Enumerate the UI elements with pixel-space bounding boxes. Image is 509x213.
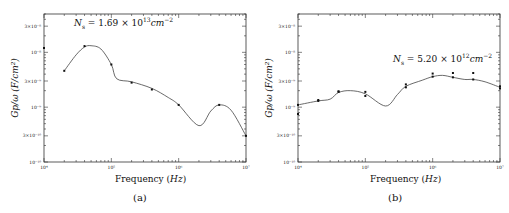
data-point xyxy=(432,76,434,78)
y-tick-label: 10⁻¹⁰ xyxy=(29,160,41,165)
xlabel-unit: Hz xyxy=(170,174,183,184)
annotation-unit: cm xyxy=(470,54,484,64)
y-tick-label: 10⁻⁸ xyxy=(285,50,295,55)
y-axis-label: Gp/ω (F/cm²) xyxy=(10,58,20,118)
xlabel-text: Frequency ( xyxy=(370,174,425,184)
data-point xyxy=(472,78,474,80)
y-axis-label: Gp/ω (F/cm²) xyxy=(264,58,274,118)
fit-curve xyxy=(64,46,246,136)
x-axis-label-b: Frequency (Hz) xyxy=(370,174,441,184)
data-point xyxy=(218,104,220,106)
y-tick-label: 10⁻⁹ xyxy=(285,105,295,110)
plot-frame xyxy=(298,14,500,162)
x-tick-label: 10⁵ xyxy=(108,165,116,170)
y-tick-label: 3×10⁻⁸ xyxy=(278,24,295,29)
data-point xyxy=(405,86,407,88)
x-tick-label: 10⁴ xyxy=(294,165,302,170)
data-point xyxy=(297,113,299,115)
data-point xyxy=(364,95,366,97)
data-point xyxy=(472,72,474,74)
y-tick-label: 3×10⁻⁹ xyxy=(278,79,295,84)
annotation-a: Ns = 1.69 × 1013cm−2 xyxy=(74,16,173,30)
y-tick-label: 3×10⁻⁸ xyxy=(24,24,41,29)
y-tick-label: 10⁻⁸ xyxy=(31,50,41,55)
data-point xyxy=(178,104,180,106)
annotation-symbol: N xyxy=(393,54,401,64)
xlabel-close: ) xyxy=(183,174,187,184)
annotation-unit-exponent: −2 xyxy=(164,16,173,23)
data-point xyxy=(405,83,407,85)
annotation-symbol: N xyxy=(74,18,82,28)
x-tick-label: 10⁵ xyxy=(362,165,370,170)
annotation-exponent: 12 xyxy=(462,52,470,59)
x-tick-label: 10⁷ xyxy=(496,165,504,170)
x-axis-label-a: Frequency (Hz) xyxy=(115,174,186,184)
data-point xyxy=(84,45,86,47)
y-tick-label: 10⁻¹⁰ xyxy=(283,160,295,165)
annotation-value: = 1.69 × 10 xyxy=(85,18,143,28)
data-point xyxy=(452,76,454,78)
x-tick-label: 10⁷ xyxy=(242,165,250,170)
data-point xyxy=(432,73,434,75)
annotation-value: = 5.20 × 10 xyxy=(404,54,462,64)
y-tick-label: 3×10⁻¹⁰ xyxy=(23,133,42,138)
xlabel-text: Frequency ( xyxy=(115,174,170,184)
panel-b: 10⁴10⁵10⁶10⁷10⁻¹⁰3×10⁻¹⁰10⁻⁹3×10⁻⁹10⁻⁸3×… xyxy=(254,0,508,213)
data-point xyxy=(364,91,366,93)
caption-b: (b) xyxy=(388,192,402,203)
xlabel-unit: Hz xyxy=(425,174,438,184)
data-point xyxy=(63,70,65,72)
data-point xyxy=(499,85,501,87)
annotation-unit-exponent: −2 xyxy=(483,52,492,59)
caption-a: (a) xyxy=(133,192,147,203)
fit-curve xyxy=(298,75,500,106)
data-point xyxy=(110,63,112,65)
y-tick-label: 10⁻⁹ xyxy=(31,105,41,110)
data-point xyxy=(317,99,319,101)
data-point xyxy=(151,88,153,90)
data-point xyxy=(43,47,45,49)
data-point xyxy=(131,82,133,84)
x-tick-label: 10⁶ xyxy=(429,165,437,170)
annotation-b: Ns = 5.20 × 1012cm−2 xyxy=(393,52,492,66)
x-tick-label: 10⁶ xyxy=(175,165,183,170)
y-tick-label: 3×10⁻⁹ xyxy=(24,79,41,84)
data-point xyxy=(338,90,340,92)
data-point xyxy=(297,104,299,106)
plot-frame xyxy=(44,14,246,162)
annotation-unit: cm xyxy=(151,18,165,28)
data-point xyxy=(245,135,247,137)
data-point xyxy=(499,87,501,89)
y-tick-label: 3×10⁻¹⁰ xyxy=(277,133,296,138)
x-tick-label: 10⁴ xyxy=(40,165,48,170)
annotation-exponent: 13 xyxy=(143,16,151,23)
xlabel-close: ) xyxy=(438,174,442,184)
data-point xyxy=(452,72,454,74)
panel-a: 10⁴10⁵10⁶10⁷10⁻¹⁰3×10⁻¹⁰10⁻⁹3×10⁻⁹10⁻⁸3×… xyxy=(0,0,254,213)
